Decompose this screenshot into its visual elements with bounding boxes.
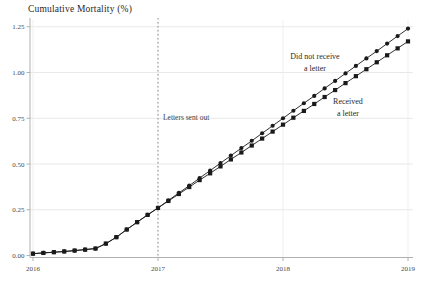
marker-square [396, 46, 400, 50]
marker-circle [354, 64, 358, 68]
marker-square [93, 246, 97, 250]
marker-circle [250, 139, 254, 143]
series-label-did-not-receive-line1: Did not receive [290, 52, 339, 61]
chart-plot-area: 0.000.250.500.751.001.252016201720182019 [0, 0, 422, 282]
marker-square [73, 248, 77, 252]
marker-square [375, 60, 379, 64]
marker-square [281, 123, 285, 127]
marker-square [208, 171, 212, 175]
cumulative-mortality-figure: 0.000.250.500.751.001.252016201720182019… [0, 0, 422, 282]
x-tick-label: 2016 [26, 265, 41, 273]
marker-circle [333, 79, 337, 83]
marker-square [187, 185, 191, 189]
marker-square [31, 252, 35, 256]
marker-square [156, 206, 160, 210]
marker-square [260, 136, 264, 140]
marker-square [271, 130, 275, 134]
marker-square [239, 150, 243, 154]
marker-circle [375, 49, 379, 53]
marker-square [343, 81, 347, 85]
series-label-did-not-receive: Did not receive a letter [278, 51, 352, 74]
chart-title: Cumulative Mortality (%) [28, 4, 132, 14]
x-tick-label: 2018 [276, 265, 291, 273]
marker-circle [271, 124, 275, 128]
y-tick-label: 0.00 [12, 252, 25, 260]
marker-square [135, 220, 139, 224]
marker-square [218, 164, 222, 168]
marker-square [198, 178, 202, 182]
marker-circle [239, 146, 243, 150]
marker-square [385, 53, 389, 57]
y-tick-label: 0.75 [12, 115, 25, 123]
y-tick-label: 0.25 [12, 206, 25, 214]
marker-square [62, 249, 66, 253]
marker-square [354, 74, 358, 78]
series-label-did-not-receive-line2: a letter [304, 64, 326, 73]
x-tick-label: 2017 [151, 265, 166, 273]
marker-square [302, 109, 306, 113]
marker-circle [323, 86, 327, 90]
marker-circle [364, 56, 368, 60]
marker-circle [406, 26, 410, 30]
marker-circle [396, 34, 400, 38]
series-label-received: Received a letter [311, 96, 385, 119]
series-label-received-line2: a letter [337, 109, 359, 118]
series-label-received-line1: Received [333, 97, 363, 106]
marker-square [250, 143, 254, 147]
marker-circle [281, 116, 285, 120]
marker-square [125, 227, 129, 231]
marker-square [83, 248, 87, 252]
marker-square [364, 67, 368, 71]
marker-circle [260, 131, 264, 135]
marker-square [52, 250, 56, 254]
marker-square [146, 213, 150, 217]
marker-square [41, 251, 45, 255]
y-tick-label: 1.00 [12, 69, 25, 77]
x-tick-label: 2019 [401, 265, 416, 273]
marker-square [291, 116, 295, 120]
marker-square [229, 157, 233, 161]
marker-square [166, 199, 170, 203]
marker-square [406, 39, 410, 43]
marker-circle [229, 153, 233, 157]
marker-square [114, 235, 118, 239]
marker-square [333, 88, 337, 92]
y-tick-label: 0.50 [12, 161, 25, 169]
marker-circle [291, 109, 295, 113]
marker-square [104, 242, 108, 246]
marker-square [177, 192, 181, 196]
marker-circle [385, 41, 389, 45]
y-tick-label: 1.25 [12, 23, 25, 31]
marker-circle [302, 101, 306, 105]
letters-sent-out-annotation: Letters sent out [163, 113, 209, 122]
